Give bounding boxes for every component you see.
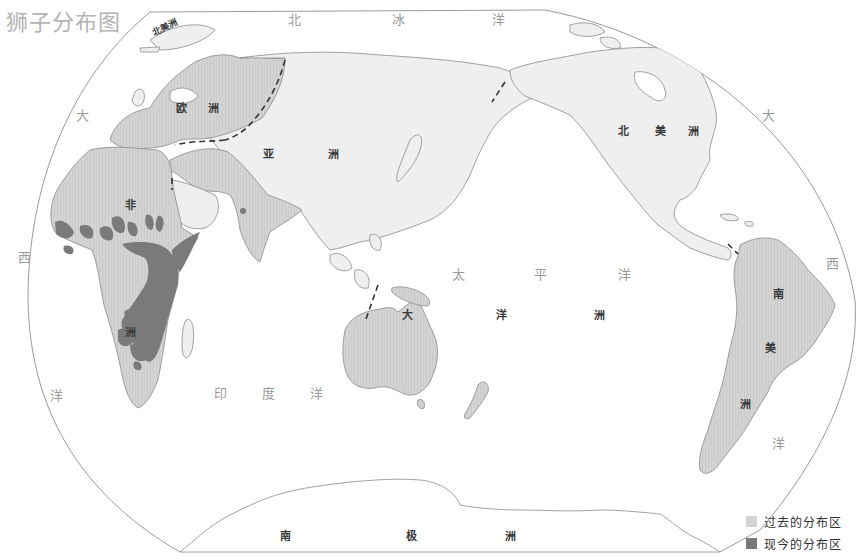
legend: 过去的分布区 现今的分布区	[746, 510, 842, 554]
past-range-swatch	[746, 516, 757, 527]
oceania-label-3: 洲	[594, 309, 605, 322]
north-america-label-1: 北	[618, 124, 629, 138]
south-america-label-3: 洲	[740, 398, 751, 411]
legend-item-current: 现今的分布区	[746, 532, 842, 554]
south-america-label-2: 美	[765, 341, 777, 355]
asia-label-1: 亚	[263, 148, 274, 161]
pacific-label-3: 洋	[618, 267, 631, 282]
africa-label-1: 非	[125, 198, 136, 212]
pacific-label-1: 太	[452, 267, 465, 282]
atlantic-e-label-1: 大	[762, 108, 775, 123]
atlantic-w-label-2: 西	[18, 250, 31, 265]
antarctica-label-2: 极	[406, 529, 418, 543]
atlantic-e-label-2: 西	[826, 256, 839, 271]
pacific-label-2: 平	[534, 267, 547, 282]
atlantic-e-label-3: 洋	[772, 436, 785, 451]
north-america-label-3: 洲	[688, 125, 699, 138]
world-map: 北 冰 洋 大 西 洋 大 西 洋 太 平 洋 印 度 洋 欧 洲 亚 洲 非 …	[0, 0, 860, 560]
legend-label-past: 过去的分布区	[764, 513, 842, 530]
europe-label-2: 洲	[208, 102, 219, 115]
indian-label-1: 印	[214, 386, 227, 401]
oceania-label-1: 大	[402, 308, 413, 322]
legend-item-past: 过去的分布区	[746, 510, 842, 532]
oceania-label-2: 洋	[496, 308, 507, 322]
arctic-ocean-label-1: 北	[288, 12, 301, 27]
current-range-swatch	[746, 538, 757, 549]
south-america-label-1: 南	[773, 287, 784, 301]
arctic-ocean-label-2: 冰	[392, 12, 405, 27]
africa-label-2: 洲	[125, 326, 136, 339]
asia-label-2: 洲	[328, 148, 339, 161]
indian-label-3: 洋	[310, 386, 323, 401]
north-america-label-2: 美	[655, 124, 667, 138]
antarctica-label-3: 洲	[505, 530, 516, 543]
atlantic-w-label-1: 大	[76, 108, 89, 123]
indian-label-2: 度	[262, 386, 275, 401]
atlantic-w-label-3: 洋	[50, 388, 63, 403]
antarctica-label-1: 南	[280, 529, 291, 543]
legend-label-current: 现今的分布区	[764, 535, 842, 552]
arctic-ocean-label-3: 洋	[492, 12, 505, 27]
europe-label-1: 欧	[176, 101, 187, 115]
